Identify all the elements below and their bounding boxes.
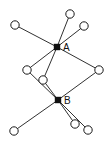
- graph-diagram: AB: [0, 0, 110, 145]
- nodes-group: [10, 10, 103, 135]
- edge-B-n_left_mid: [27, 70, 58, 100]
- labels-group: AB: [63, 42, 71, 106]
- node-n-top: [66, 10, 74, 18]
- node-n-top-left: [11, 21, 19, 29]
- node-n-inner: [39, 76, 47, 84]
- node-n-bottom-2: [84, 126, 92, 134]
- hub-node-b: [55, 97, 61, 103]
- node-n-bottom-left: [10, 127, 18, 135]
- node-n-left-mid: [23, 66, 31, 74]
- node-n-upper-right: [80, 22, 88, 30]
- hub-label-b: B: [64, 95, 71, 106]
- edge-A-n_top_left: [15, 25, 57, 47]
- node-n-right: [95, 66, 103, 74]
- edge-B-n_bottom_left: [14, 100, 58, 131]
- hub-label-a: A: [63, 42, 70, 53]
- node-n-bottom-1: [71, 120, 79, 128]
- hub-node-a: [54, 44, 60, 50]
